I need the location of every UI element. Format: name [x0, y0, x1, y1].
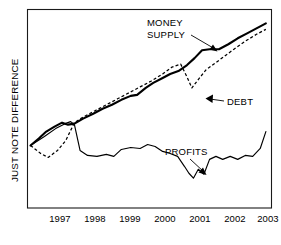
x-tick-label: 2003	[257, 213, 279, 224]
chart-container: JUST NOTE DIFFERENCE 1997 1998 1999 2000…	[0, 0, 281, 245]
annotation-debt: DEBT	[206, 95, 254, 108]
x-tick-label: 1998	[84, 213, 106, 224]
x-tick-label: 1999	[119, 213, 141, 224]
annotation-money-supply: MONEY SUPPLY	[147, 17, 218, 52]
annotation-profits-label: PROFITS	[165, 146, 208, 157]
annotation-profits: PROFITS	[165, 146, 208, 175]
y-axis-label: JUST NOTE DIFFERENCE	[9, 58, 20, 182]
annotation-money-supply-arrowhead	[210, 45, 218, 52]
y-axis-label-text: JUST NOTE DIFFERENCE	[9, 58, 20, 182]
annotation-debt-label: DEBT	[227, 96, 253, 107]
annotation-money-supply-line1: MONEY	[147, 17, 183, 28]
x-tick-label: 2001	[189, 213, 211, 224]
x-tick-label: 2002	[224, 213, 246, 224]
series-line-money-supply	[31, 23, 266, 145]
annotation-money-supply-line2: SUPPLY	[147, 29, 185, 40]
annotation-debt-arrowhead	[206, 95, 214, 104]
series-line-debt	[31, 29, 266, 157]
x-axis-tick-labels: 1997 1998 1999 2000 2001 2002 2003	[49, 213, 279, 224]
x-tick-label: 2000	[154, 213, 176, 224]
line-chart: JUST NOTE DIFFERENCE 1997 1998 1999 2000…	[0, 0, 281, 245]
x-tick-label: 1997	[49, 213, 71, 224]
series-line-profits	[31, 122, 266, 179]
